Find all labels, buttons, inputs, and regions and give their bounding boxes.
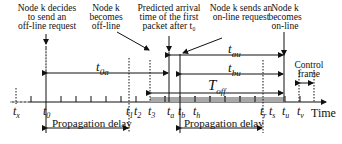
tick-tx: tx bbox=[13, 105, 20, 122]
tbu-label: tbu bbox=[228, 61, 241, 80]
prop-delay-1-label: Propagation delay bbox=[52, 118, 132, 129]
toff-label: Toff bbox=[208, 79, 226, 98]
tick-ta: ta bbox=[167, 105, 174, 122]
t0a-label: t0a bbox=[96, 60, 109, 79]
tick-ts: ts bbox=[269, 105, 275, 122]
t2-annotation: Node k becomes off-line bbox=[88, 4, 124, 31]
tb-annotation: Node k sends an on-line request bbox=[208, 4, 274, 22]
tick-tv: tv bbox=[297, 105, 304, 122]
tau-label: tau bbox=[228, 42, 241, 61]
control-frame-annotation: Control frame bbox=[292, 61, 326, 79]
tick-t2: t2 bbox=[134, 105, 141, 122]
prop-delay-2-label: Propagation delay bbox=[184, 118, 264, 129]
tu-annotation: Node k becomes on-line bbox=[268, 4, 302, 31]
ta-annotation: Predicted arrival time of the first pack… bbox=[132, 4, 206, 31]
tick-tu: tu bbox=[282, 105, 289, 122]
tick-t3: t3 bbox=[148, 105, 155, 122]
tick-t0: t0 bbox=[43, 105, 50, 122]
t0-annotation: Node k decides to send an off-line reque… bbox=[14, 4, 80, 31]
time-axis-label: Time bbox=[311, 107, 336, 119]
